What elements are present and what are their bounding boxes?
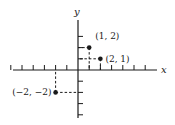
y-axis-label: y bbox=[73, 6, 80, 17]
x-axis-label: x bbox=[161, 64, 167, 75]
point-marker bbox=[98, 57, 103, 62]
point-label: (−2, −2) bbox=[12, 87, 51, 97]
point-labels: (1, 2)(2, 1)(−2, −2) bbox=[12, 31, 129, 98]
point-label: (1, 2) bbox=[95, 31, 119, 41]
coordinate-plane: (1, 2)(2, 1)(−2, −2) x y bbox=[0, 0, 175, 125]
axes bbox=[13, 20, 157, 118]
point-marker bbox=[87, 45, 92, 50]
point-marker bbox=[53, 90, 58, 95]
point-label: (2, 1) bbox=[105, 54, 129, 64]
